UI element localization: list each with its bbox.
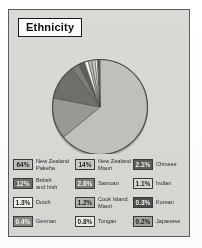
legend-label: Chinese (156, 161, 177, 167)
legend-item[interactable]: 1.1% Indian (133, 175, 187, 192)
legend-item[interactable]: 0.3% Korean (133, 194, 187, 211)
chart-title: Ethnicity (18, 18, 82, 37)
chart-legend: 64% New Zealand Pakeha 12% British and I… (13, 156, 187, 232)
legend-label: British and Irish (36, 177, 57, 189)
legend-item[interactable]: 0.8% Tongan (75, 213, 133, 230)
legend-item[interactable]: 2.1% Chinese (133, 156, 187, 173)
legend-item[interactable]: 64% New Zealand Pakeha (13, 156, 75, 173)
legend-swatch: 0.3% (133, 197, 153, 208)
pie-chart (9, 36, 191, 158)
legend-label: Dutch (36, 199, 51, 205)
legend-swatch: 0.8% (75, 216, 95, 227)
legend-label: Korean (156, 199, 174, 205)
legend-swatch: 12% (13, 178, 33, 189)
legend-swatch: 0.4% (13, 216, 33, 227)
legend-item[interactable]: 1.3% Dutch (13, 194, 75, 211)
legend-item[interactable]: 0.2% Japanese (133, 213, 187, 230)
legend-label: Cook Island Maori (98, 196, 128, 208)
legend-label: New Zealand Pakeha (36, 158, 69, 170)
legend-column-1: 64% New Zealand Pakeha 12% British and I… (13, 156, 75, 232)
legend-swatch: 1.3% (13, 197, 33, 208)
legend-swatch: 0.2% (133, 216, 153, 227)
pie-chart-svg (44, 36, 156, 154)
legend-label: Japanese (156, 218, 180, 224)
legend-swatch: 64% (13, 159, 33, 170)
legend-swatch: 1.2% (75, 197, 95, 208)
legend-item[interactable]: 1.2% Cook Island Maori (75, 194, 133, 211)
legend-column-3: 2.1% Chinese 1.1% Indian 0.3% Korean 0.2… (133, 156, 187, 232)
legend-item[interactable]: 14% New Zealand Maori (75, 156, 133, 173)
chart-figure: Ethnicity 64% New Zealand Pakeha 12% Bri… (8, 9, 190, 237)
legend-swatch: 1.1% (133, 178, 153, 189)
legend-item[interactable]: 2.6% Samoan (75, 175, 133, 192)
legend-column-2: 14% New Zealand Maori 2.6% Samoan 1.2% C… (75, 156, 133, 232)
legend-item[interactable]: 0.4% German (13, 213, 75, 230)
legend-swatch: 2.6% (75, 178, 95, 189)
legend-label: New Zealand Maori (98, 158, 131, 170)
legend-label: Samoan (98, 180, 119, 186)
legend-swatch: 2.1% (133, 159, 153, 170)
legend-item[interactable]: 12% British and Irish (13, 175, 75, 192)
legend-swatch: 14% (75, 159, 95, 170)
legend-label: Tongan (98, 218, 116, 224)
legend-label: German (36, 218, 56, 224)
legend-label: Indian (156, 180, 171, 186)
